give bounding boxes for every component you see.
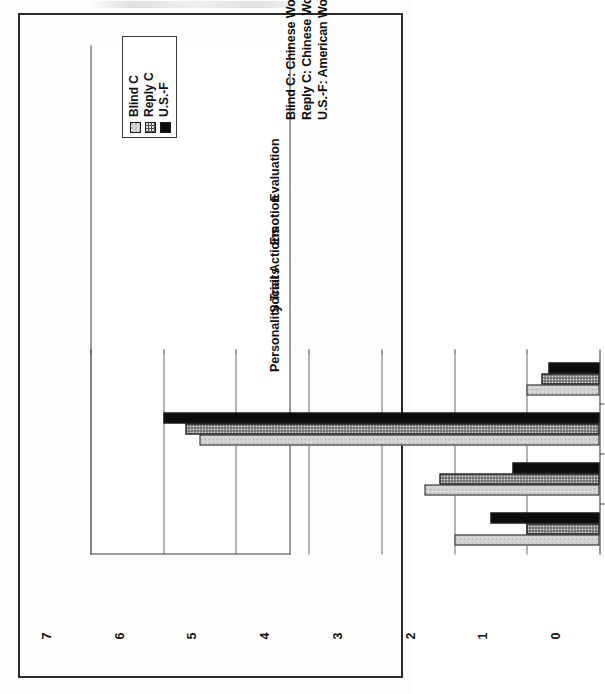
bar: [541, 374, 599, 385]
bar: [527, 385, 600, 396]
bar: [200, 435, 600, 446]
category-label-personality-traits: Personality Traits: [268, 268, 282, 372]
caption-line: U.S.-F: American Women Students, Letters…: [316, 0, 330, 120]
bar: [454, 535, 599, 546]
value-tick-1: [527, 350, 528, 355]
plot-area: [91, 46, 291, 555]
category-tick: [600, 454, 605, 455]
bar: [163, 413, 599, 424]
chart-legend: Blind CReply CU.S.-F: [122, 36, 177, 138]
value-tick-3: [381, 350, 382, 355]
plot-panel: [91, 46, 291, 555]
value-tick-4: [309, 350, 310, 355]
bar: [512, 463, 599, 474]
value-tick-label-2: 2: [404, 627, 418, 645]
value-tick-5: [236, 350, 237, 355]
bar: [440, 474, 600, 485]
gridline-5: [236, 355, 237, 555]
legend-swatch: [130, 122, 141, 133]
value-tick-label-6: 6: [113, 627, 127, 645]
legend-item: U.S.-F: [160, 47, 174, 133]
category-label-evaluation: Evaluation: [268, 138, 282, 201]
legend-label: U.S.-F: [157, 82, 171, 117]
value-tick-0: [600, 350, 601, 355]
gridline-3: [381, 355, 382, 555]
category-tick: [600, 404, 605, 405]
value-tick-6: [163, 350, 164, 355]
legend-swatch: [160, 122, 171, 133]
gridline-0: [600, 355, 601, 555]
caption-line: Reply C: Chinese Women Students, Letters…: [300, 0, 314, 120]
value-tick-label-3: 3: [331, 627, 345, 645]
value-tick-2: [454, 350, 455, 355]
bar: [425, 485, 600, 496]
bar: [490, 513, 599, 524]
category-tick: [600, 504, 605, 505]
caption-line: Blind C: Chinese Women Students, Letters…: [284, 0, 298, 120]
legend-label: Blind C: [127, 75, 141, 117]
value-tick-label-4: 4: [258, 627, 272, 645]
legend-swatch: [145, 122, 156, 133]
bar: [549, 363, 600, 374]
gridline-7: [91, 355, 92, 555]
gridline-2: [454, 355, 455, 555]
legend-label: Reply C: [142, 72, 156, 117]
value-tick-7: [91, 350, 92, 355]
bar: [185, 424, 599, 435]
value-tick-label-7: 7: [40, 627, 54, 645]
gridline-4: [309, 355, 310, 555]
value-tick-label-1: 1: [476, 627, 490, 645]
value-tick-label-0: 0: [549, 627, 563, 645]
bar: [527, 524, 600, 535]
gridline-6: [163, 355, 164, 555]
value-tick-label-5: 5: [185, 627, 199, 645]
